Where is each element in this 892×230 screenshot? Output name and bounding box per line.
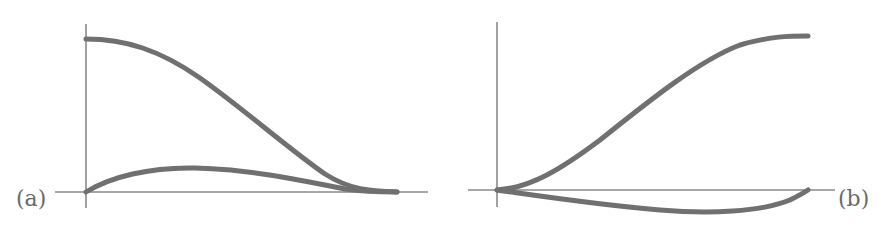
panel-a	[55, 24, 428, 208]
panel-a-label: (a)	[16, 188, 46, 210]
panel-b-upper-curve	[497, 36, 808, 190]
panel-b-lower-curve	[497, 190, 808, 212]
panel-b	[468, 22, 835, 212]
panel-b-label: (b)	[838, 188, 869, 210]
figure	[0, 0, 892, 230]
panel-a-lower-curve	[86, 168, 397, 192]
